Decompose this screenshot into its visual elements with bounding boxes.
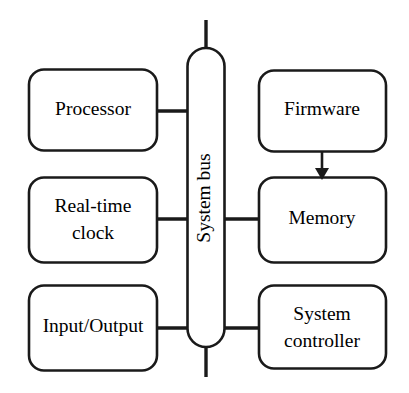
diagram-canvas: Processor Real-time clock Input/Output F… — [0, 0, 409, 393]
label-system-controller-line1: System — [293, 303, 350, 324]
label-real-time-clock-line1: Real-time — [55, 195, 132, 216]
label-real-time-clock-line2: clock — [72, 222, 114, 243]
label-memory: Memory — [288, 207, 355, 228]
label-system-bus: System bus — [193, 153, 214, 242]
label-input-output: Input/Output — [43, 315, 144, 336]
label-firmware: Firmware — [284, 98, 360, 119]
label-system-controller-line2: controller — [284, 330, 360, 351]
node-real-time-clock — [29, 178, 157, 263]
node-system-controller — [259, 286, 386, 369]
system-bus-diagram: Processor Real-time clock Input/Output F… — [0, 0, 409, 393]
label-processor: Processor — [55, 98, 131, 119]
